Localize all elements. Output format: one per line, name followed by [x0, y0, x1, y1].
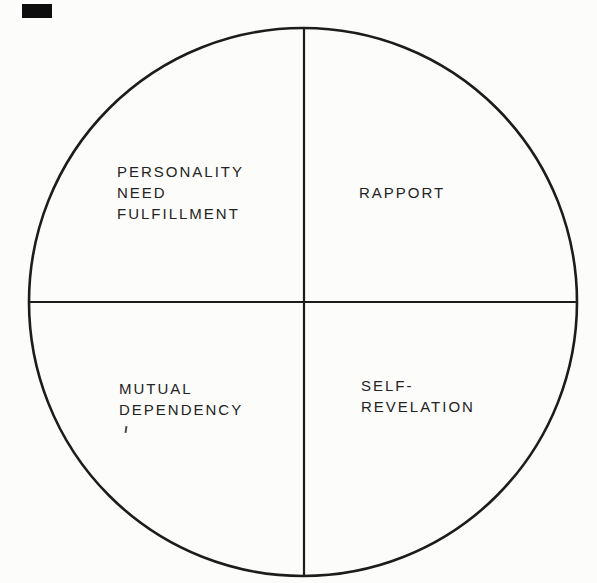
quadrant-circle-diagram	[0, 0, 597, 583]
label-line: REVELATION	[361, 396, 475, 417]
quadrant-label-self-revelation: SELF- REVELATION	[361, 375, 475, 417]
scanned-figure-page: PERSONALITY NEED FULFILLMENT RAPPORT MUT…	[0, 0, 597, 583]
label-line: DEPENDENCY	[119, 399, 243, 420]
quadrant-label-rapport: RAPPORT	[359, 182, 445, 203]
quadrant-label-mutual-dependency: MUTUAL DEPENDENCY	[119, 378, 243, 420]
label-line: MUTUAL	[119, 378, 243, 399]
quadrant-label-personality-need-fulfillment: PERSONALITY NEED FULFILLMENT	[117, 161, 244, 224]
label-line: NEED	[117, 182, 244, 203]
label-line: PERSONALITY	[117, 161, 244, 182]
label-line: RAPPORT	[359, 182, 445, 203]
label-line: SELF-	[361, 375, 475, 396]
label-line: FULFILLMENT	[117, 203, 244, 224]
